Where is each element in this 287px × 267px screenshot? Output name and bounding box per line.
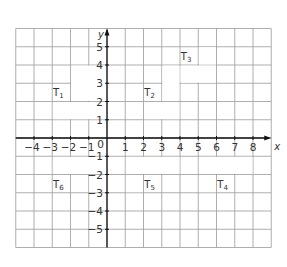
shape-label-T2: T2 [143, 87, 155, 100]
shape-fill [126, 175, 143, 192]
shape-fill [126, 157, 180, 174]
x-tick-label: 5 [195, 141, 202, 153]
x-tick-label: −3 [43, 141, 58, 153]
shape-fill [199, 175, 216, 192]
y-tick-label: −1 [88, 150, 103, 162]
origin-label: 0 [97, 138, 104, 150]
y-tick-label: 4 [96, 59, 103, 71]
x-axis-arrow-icon [264, 136, 271, 141]
shape-fill [199, 47, 216, 64]
y-axis-label: y [97, 29, 105, 40]
shape-fill [199, 157, 253, 174]
x-tick-label: 2 [140, 141, 147, 153]
x-tick-label: 4 [177, 141, 184, 153]
tick-labels: −4−3−2−11234567854321−1−2−3−4−50xy [24, 29, 280, 236]
x-tick-label: 1 [122, 141, 129, 153]
y-tick-label: 2 [96, 96, 103, 108]
x-tick-label: −2 [61, 141, 76, 153]
x-tick-label: −4 [24, 141, 40, 153]
y-tick-label: −5 [88, 223, 103, 235]
y-tick-label: 1 [96, 114, 103, 126]
shape-label-T4: T4 [216, 179, 228, 192]
y-tick-label: 3 [96, 77, 103, 89]
shape-label-T3: T3 [180, 51, 192, 64]
y-tick-label: −2 [88, 169, 103, 181]
shape-label-T5: T5 [143, 179, 155, 192]
shape-fill [162, 66, 179, 101]
x-tick-label: 7 [231, 141, 238, 153]
y-tick-label: −4 [88, 205, 104, 217]
x-tick-label: 8 [250, 141, 257, 153]
y-tick-label: −3 [88, 187, 103, 199]
shape-label-T6: T6 [52, 179, 64, 192]
shape-fill [144, 102, 179, 119]
x-tick-label: 6 [213, 141, 220, 153]
y-axis-arrow-icon [105, 29, 110, 36]
x-axis-label: x [273, 141, 280, 152]
y-tick-label: 5 [96, 41, 103, 53]
x-tick-label: 3 [158, 141, 165, 153]
coordinate-grid-diagram: −4−3−2−11234567854321−1−2−3−4−50xy T1T2T… [0, 0, 287, 267]
shape-fill [181, 66, 216, 83]
shape-label-T1: T1 [52, 87, 64, 100]
